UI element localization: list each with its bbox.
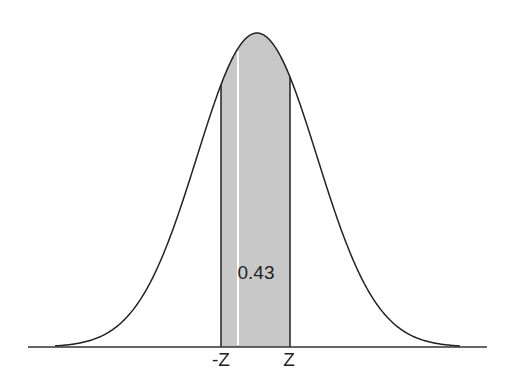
left-bound-label: -Z <box>212 349 230 370</box>
shaded-area <box>221 33 290 347</box>
normal-curve-diagram: 0.43 -Z Z <box>0 0 511 389</box>
right-bound-label: Z <box>283 349 295 370</box>
normal-curve-svg: 0.43 -Z Z <box>0 0 511 389</box>
area-label: 0.43 <box>238 262 275 283</box>
